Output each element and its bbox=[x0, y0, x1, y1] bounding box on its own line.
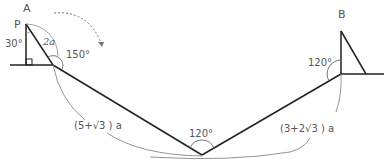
right-angle-mark bbox=[26, 59, 32, 65]
angle-arc-120-bottom bbox=[190, 140, 214, 148]
arrowhead-icon bbox=[98, 42, 104, 47]
label-point-a: A bbox=[23, 3, 31, 14]
trajectory-arc-left-bottom bbox=[107, 133, 202, 156]
label-length-left: (5+√3 ) a bbox=[74, 121, 122, 131]
trajectory-arc-left bbox=[53, 65, 85, 120]
rotation-arrow-icon bbox=[54, 13, 101, 43]
main-path bbox=[53, 65, 341, 155]
label-point-b: B bbox=[338, 9, 346, 20]
triangle-b bbox=[341, 31, 384, 74]
trajectory-arc-right bbox=[336, 74, 341, 112]
label-angle-150: 150° bbox=[66, 50, 90, 60]
label-angle-2a: 2a bbox=[43, 37, 55, 47]
label-point-p: P bbox=[14, 19, 21, 30]
label-angle-30: 30° bbox=[5, 39, 23, 49]
angle-arc-150 bbox=[48, 56, 63, 71]
label-length-right: (3+2√3 ) a bbox=[280, 124, 334, 134]
trajectory-arc-bottom bbox=[150, 138, 310, 159]
label-angle-120-b: 120° bbox=[308, 58, 332, 68]
label-angle-120-bottom: 120° bbox=[189, 129, 213, 139]
